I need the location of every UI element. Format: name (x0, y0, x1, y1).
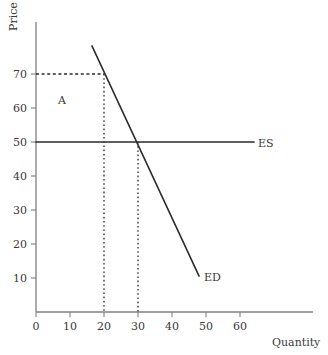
y-tick-label-70: 70 (13, 68, 27, 81)
x-tick-label-50: 50 (199, 320, 213, 333)
x-tick-label-30: 30 (131, 320, 145, 333)
y-tick-label-50: 50 (13, 136, 27, 149)
y-tick-label-40: 40 (13, 170, 27, 183)
y-tick-label-60: 60 (13, 102, 27, 115)
demand-curve-ed (92, 46, 199, 276)
y-axis-title: Price (7, 2, 20, 31)
curve-label-ed: ED (204, 271, 221, 284)
x-axis-title: Quantity (272, 336, 321, 349)
y-tick-label-20: 20 (13, 238, 27, 251)
region-label-a: A (57, 94, 67, 107)
economics-supply-demand-chart: 70 60 50 40 30 20 10 0 10 20 30 40 50 60… (0, 0, 328, 355)
curve-label-es: ES (258, 137, 274, 150)
chart-canvas: 70 60 50 40 30 20 10 0 10 20 30 40 50 60… (0, 0, 328, 355)
y-tick-label-10: 10 (13, 272, 27, 285)
x-tick-label-10: 10 (63, 320, 77, 333)
x-tick-label-40: 40 (165, 320, 179, 333)
x-tick-label-60: 60 (233, 320, 247, 333)
y-tick-label-30: 30 (13, 204, 27, 217)
x-tick-label-20: 20 (97, 320, 111, 333)
x-tick-label-0: 0 (33, 320, 40, 333)
